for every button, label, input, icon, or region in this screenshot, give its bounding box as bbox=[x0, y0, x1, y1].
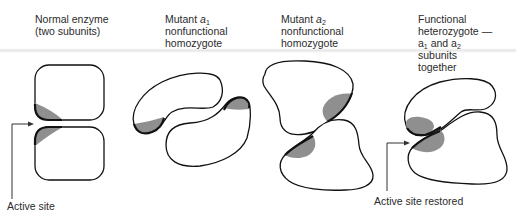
mutant-a1-subunits bbox=[133, 73, 250, 166]
active-site-restored-label: Active site restored bbox=[374, 195, 463, 207]
normal-subunit-bottom bbox=[35, 127, 104, 180]
active-site-label: Active site bbox=[7, 200, 55, 212]
active-site-restored-pointer bbox=[387, 141, 410, 192]
active-site-pointer bbox=[12, 122, 34, 200]
normal-subunit-top bbox=[35, 65, 104, 120]
normal-enzyme-subunits bbox=[35, 65, 104, 180]
heterozygote-subunits bbox=[405, 79, 507, 185]
mutant-a2-subunits bbox=[263, 61, 373, 190]
enzyme-diagram bbox=[0, 0, 516, 217]
